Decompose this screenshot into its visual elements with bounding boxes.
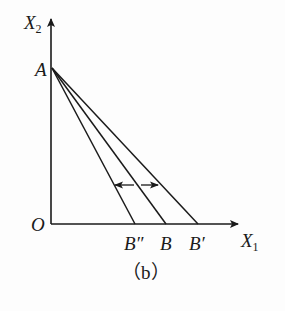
figure-caption: （b）	[122, 263, 170, 282]
point-b-label: B	[160, 234, 172, 253]
line-a-b	[52, 68, 166, 224]
y-axis-label: X2	[24, 13, 42, 35]
origin-label: O	[31, 215, 45, 234]
budget-line-diagram: X2 A O B″ B B′ X1 （b）	[0, 0, 285, 311]
line-a-b-double-prime	[52, 68, 135, 224]
x-axis-label: X1	[241, 231, 259, 253]
point-b-prime-label: B′	[189, 234, 205, 253]
point-b-double-prime-label: B″	[124, 234, 144, 253]
point-a-label: A	[35, 60, 47, 79]
line-a-b-prime	[52, 68, 198, 224]
